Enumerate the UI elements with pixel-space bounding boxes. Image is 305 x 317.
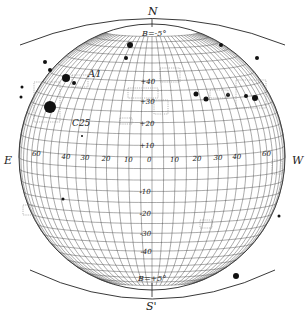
longitude-line [197,33,284,250]
longitude-tick: 60 [262,150,271,158]
b-angle-bottom: B=+5° [137,274,166,283]
sunspot [244,94,248,98]
latitude-tick-north: +10 [139,142,154,150]
b-angle-top: B=-5° [141,29,166,38]
longitude-tick: 10 [124,156,133,164]
sunspot [48,68,52,72]
latitude-tick-south: -20 [140,210,152,218]
west-label: W [292,154,305,167]
sunspot [20,96,23,99]
sunspot [44,101,56,113]
longitude-line [20,33,107,250]
longitude-tick: 40 [231,153,241,161]
latitude-tick-south: -10 [139,188,151,196]
longitude-tick: 40 [61,153,71,161]
sunspot [219,43,223,47]
south-label: S' [146,300,157,313]
latitude-tick-north: +40 [140,78,155,86]
sunspot [21,86,24,89]
longitude-line [19,33,107,158]
longitude-tick: 30 [81,154,90,162]
facula-region [160,68,180,82]
sunspot [81,135,83,137]
sunspot [62,74,70,82]
longitude-line [181,36,237,285]
sunspot [252,95,258,101]
sunspot [194,92,199,97]
longitude-tick: 10 [170,156,179,164]
sunspot [278,215,281,218]
longitude-tick: 60 [32,150,41,158]
longitude-line [191,35,267,284]
longitude-tick: 0 [147,156,152,164]
longitude-tick: 20 [101,155,111,163]
longitude-line [198,33,286,158]
latitude-tick-north: +20 [140,120,155,128]
sunspot [127,42,133,48]
sunspot [72,81,76,85]
sunspot [62,198,65,201]
latitude-tick-north: +30 [140,98,155,106]
sunspot [43,60,47,64]
region-label-c25: C25 [72,118,91,128]
solar-disk-diagram: N S' E W B=-5° B=+5° A1 C25 604030201001… [0,0,305,317]
latitude-tick-south: -40 [140,248,152,256]
region-label-a1: A1 [87,68,102,79]
sunspot [255,56,259,60]
longitude-tick: 30 [214,154,223,162]
facula-region [154,100,168,114]
sunspot [124,56,128,60]
sunspot [204,97,209,102]
latitude-tick-south: -30 [140,230,152,238]
east-label: E [3,154,12,167]
sunspot [233,273,239,279]
longitude-tick: 20 [192,155,202,163]
heliographic-grid [19,24,285,290]
north-label: N [147,5,158,18]
